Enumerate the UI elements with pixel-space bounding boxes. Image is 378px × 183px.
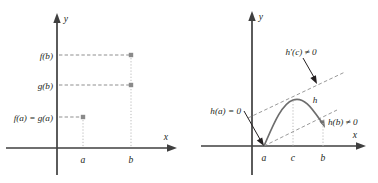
left-tick-label-a: a xyxy=(81,154,86,165)
figure-root: f(b) g(b) f(a) = g(a) a b x y xyxy=(0,0,378,183)
right-axis-label-y: y xyxy=(258,11,264,22)
right-curve-label-h: h xyxy=(313,95,318,105)
right-annotation-h-b: h(b) ≠ 0 xyxy=(328,117,358,127)
left-x-axis xyxy=(6,144,177,151)
left-value-label-gb: g(b) xyxy=(38,81,53,91)
left-axis-label-x: x xyxy=(163,131,169,142)
right-tick-label-c: c xyxy=(291,152,296,163)
right-diagram-svg: h(a) = 0 h′(c) ≠ 0 h(b) ≠ 0 h a c b x y xyxy=(189,0,378,183)
right-y-axis xyxy=(248,11,255,175)
right-tick-label-a: a xyxy=(262,152,267,163)
right-diagram-panel: h(a) = 0 h′(c) ≠ 0 h(b) ≠ 0 h a c b x y xyxy=(189,0,378,183)
left-point-fb xyxy=(129,53,133,57)
right-x-axis xyxy=(201,142,366,149)
left-tick-label-b: b xyxy=(129,154,134,165)
left-point-gb xyxy=(129,83,133,87)
right-tick-label-b: b xyxy=(321,152,326,163)
left-value-label-fa-ga: f(a) = g(a) xyxy=(14,113,53,123)
left-value-label-fb: f(b) xyxy=(40,51,53,61)
left-diagram-svg: f(b) g(b) f(a) = g(a) a b x y xyxy=(0,0,189,183)
right-x-axis-arrowhead xyxy=(356,142,366,149)
right-pointer-h-prime-c xyxy=(303,58,317,84)
left-axis-label-y: y xyxy=(63,13,69,24)
right-pointer-h-a xyxy=(244,111,264,146)
left-point-fa-ga xyxy=(81,115,85,119)
right-secant-line-from-a xyxy=(264,110,337,146)
right-annotation-h-a: h(a) = 0 xyxy=(210,106,241,116)
right-axis-label-x: x xyxy=(352,129,358,140)
left-x-axis-arrowhead xyxy=(167,144,177,151)
left-y-axis-arrowhead xyxy=(53,13,60,23)
left-diagram-panel: f(b) g(b) f(a) = g(a) a b x y xyxy=(0,0,189,183)
left-y-axis xyxy=(53,13,60,175)
right-annotation-h-prime-c: h′(c) ≠ 0 xyxy=(285,47,316,57)
right-tangent-line-at-c xyxy=(248,72,345,118)
right-y-axis-arrowhead xyxy=(248,11,255,21)
